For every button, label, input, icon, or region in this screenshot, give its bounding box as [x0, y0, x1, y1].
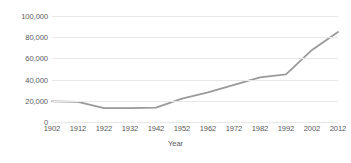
x-tick-label: 1992 — [278, 124, 295, 133]
x-tick-label: 1982 — [252, 124, 269, 133]
line-chart: 020,00040,00060,00080,000100,000 1902191… — [0, 0, 351, 163]
x-tick-label: 1922 — [96, 124, 113, 133]
y-tick-label: 60,000 — [2, 54, 48, 63]
x-tick-label: 2012 — [330, 124, 347, 133]
plot-area — [52, 16, 338, 122]
x-tick-label: 1952 — [174, 124, 191, 133]
gridline — [52, 37, 338, 38]
y-tick-label: 40,000 — [2, 75, 48, 84]
y-tick-label: 100,000 — [2, 12, 48, 21]
gridline — [52, 122, 338, 123]
gridline — [52, 16, 338, 17]
x-tick-label: 2002 — [304, 124, 321, 133]
gridline — [52, 80, 338, 81]
series-line — [52, 16, 338, 122]
x-tick-label: 1972 — [226, 124, 243, 133]
x-tick-label: 1902 — [44, 124, 61, 133]
x-tick-label: 1942 — [148, 124, 165, 133]
gridline — [52, 101, 338, 102]
x-tick-label: 1912 — [70, 124, 87, 133]
gridline — [52, 58, 338, 59]
y-tick-label: 80,000 — [2, 33, 48, 42]
y-tick-label: 0 — [2, 118, 48, 127]
x-tick-label: 1932 — [122, 124, 139, 133]
x-axis-title: Year — [0, 139, 351, 148]
x-axis: 1902191219221932194219521962197219821992… — [52, 124, 338, 138]
x-tick-label: 1962 — [200, 124, 217, 133]
y-tick-label: 20,000 — [2, 96, 48, 105]
